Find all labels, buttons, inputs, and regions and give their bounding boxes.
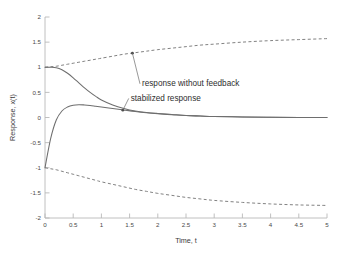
x-tick-label-8: 4 [269, 221, 273, 228]
response-line-chart: 0 0.5 1 1.5 2 2.5 [0, 0, 344, 259]
y-axis-title: Response, x(t) [8, 94, 17, 141]
x-tick-label-5: 2.5 [182, 221, 191, 228]
x-tick-label-0: 0 [43, 221, 47, 228]
annotation-stabilized-response: stabilized response [121, 94, 201, 112]
x-tick-9: 4.5 [294, 214, 303, 229]
y-tick-0p5: 0.5 [32, 89, 49, 96]
x-tick-label-7: 3.5 [238, 221, 247, 228]
x-tick-1: 0.5 [69, 214, 78, 229]
x-tick-label-2: 1 [100, 221, 104, 228]
annotation-label-response-without-feedback: response without feedback [142, 79, 240, 88]
x-tick-label-6: 3 [212, 221, 216, 228]
x-tick-label-10: 5 [325, 221, 329, 228]
y-tick-label-minus1: -1 [35, 164, 41, 171]
x-tick-5: 2.5 [182, 214, 191, 229]
y-tick-label-minus1p5: -1.5 [30, 189, 41, 196]
x-axis-ticks: 0 0.5 1 1.5 2 2.5 [43, 214, 329, 229]
figure-container: 0 0.5 1 1.5 2 2.5 [0, 0, 344, 259]
y-tick-0: 0 [38, 114, 50, 121]
annotation-response-without-feedback: response without feedback [131, 52, 240, 89]
series-unstable-upper [45, 39, 327, 68]
y-tick-minus0p5: -0.5 [30, 139, 49, 146]
x-tick-0: 0 [43, 214, 47, 229]
y-axis-ticks: -2 -1.5 -1 -0.5 0 0.5 [30, 13, 49, 221]
x-tick-2: 1 [100, 214, 104, 229]
x-tick-4: 2 [156, 214, 160, 229]
series-unstable-lower [45, 168, 327, 206]
y-tick-minus1: -1 [35, 164, 49, 171]
y-tick-label-1: 1 [38, 63, 42, 70]
y-tick-label-minus0p5: -0.5 [30, 139, 41, 146]
x-tick-8: 4 [269, 214, 273, 229]
x-tick-label-3: 1.5 [125, 221, 134, 228]
x-tick-label-1: 0.5 [69, 221, 78, 228]
annotation-label-stabilized-response: stabilized response [131, 94, 202, 103]
data-series-group [45, 39, 327, 206]
x-tick-label-9: 4.5 [294, 221, 303, 228]
y-tick-1p5: 1.5 [32, 38, 49, 45]
y-tick-2: 2 [38, 13, 50, 20]
x-tick-10: 5 [325, 214, 329, 229]
x-tick-6: 3 [212, 214, 216, 229]
y-tick-label-0p5: 0.5 [32, 89, 41, 96]
y-tick-label-1p5: 1.5 [32, 38, 41, 45]
y-tick-label-minus2: -2 [35, 214, 41, 221]
x-axis-title: Time, t [175, 236, 197, 245]
y-tick-label-2: 2 [38, 13, 42, 20]
y-tick-minus1p5: -1.5 [30, 189, 49, 196]
x-tick-7: 3.5 [238, 214, 247, 229]
y-tick-label-0: 0 [38, 114, 42, 121]
series-stabilized-from-negative-one [45, 105, 327, 168]
annotation-leader-line-0 [132, 53, 140, 84]
series-stabilized-from-positive-one [45, 67, 327, 117]
x-tick-3: 1.5 [125, 214, 134, 229]
x-tick-label-4: 2 [156, 221, 160, 228]
